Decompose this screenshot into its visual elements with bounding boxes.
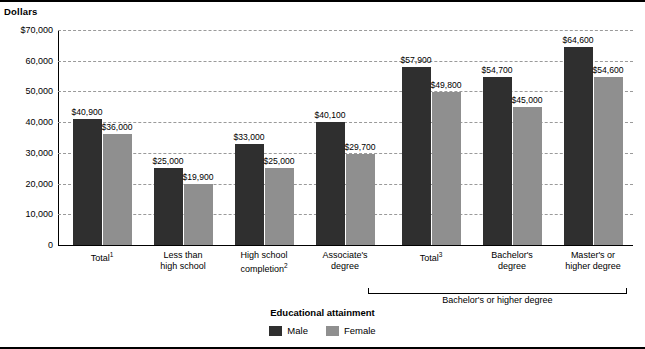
bar-female-1 <box>184 184 213 245</box>
y-tick-0: 0 <box>48 240 53 250</box>
legend-swatch-female-icon <box>326 326 339 336</box>
bar-series-layer: $40,900$36,000$25,000$19,900$33,000$25,0… <box>58 30 633 245</box>
bar-label-male-6: $64,600 <box>555 35 602 45</box>
category-label-5: Bachelor'sdegree <box>470 250 554 271</box>
y-tick-70000: $70,000 <box>20 25 53 35</box>
y-tick-50000: 50,000 <box>25 86 53 96</box>
bar-label-male-4: $57,900 <box>393 55 440 65</box>
bar-female-6 <box>594 77 623 245</box>
bar-label-male-1: $25,000 <box>145 156 192 166</box>
bar-label-female-3: $29,700 <box>337 142 384 152</box>
bar-label-female-0: $36,000 <box>94 122 141 132</box>
y-axis-title: Dollars <box>4 6 38 17</box>
legend-label-female: Female <box>344 325 376 336</box>
y-tick-10000: 10,000 <box>25 209 53 219</box>
y-tick-30000: 30,000 <box>25 148 53 158</box>
bar-label-female-2: $25,000 <box>256 156 303 166</box>
bar-male-0 <box>73 119 102 245</box>
bar-female-2 <box>265 168 294 245</box>
y-tick-40000: 40,000 <box>25 117 53 127</box>
top-divider <box>0 0 645 2</box>
y-tick-60000: 60,000 <box>25 56 53 66</box>
bar-male-3 <box>316 122 345 245</box>
bar-male-4 <box>402 67 431 245</box>
bracket-tick-left <box>368 288 369 294</box>
bar-female-3 <box>346 154 375 245</box>
bar-label-female-6: $54,600 <box>585 65 632 75</box>
legend-item-male[interactable]: Male <box>269 325 308 336</box>
bar-label-male-2: $33,000 <box>226 132 273 142</box>
category-label-4: Total3 <box>389 250 473 264</box>
chart-legend: Male Female <box>0 325 645 336</box>
plot-area: $70,000 60,000 50,000 40,000 30,000 20,0… <box>58 30 633 245</box>
bar-label-female-1: $19,900 <box>175 172 222 182</box>
legend-item-female[interactable]: Female <box>326 325 376 336</box>
category-label-0: Total1 <box>60 250 144 264</box>
bar-female-4 <box>432 92 461 245</box>
bracket-label: Bachelor's or higher degree <box>368 295 627 305</box>
legend-swatch-male-icon <box>269 326 282 336</box>
bracket-line <box>368 293 627 294</box>
legend-label-male: Male <box>287 325 308 336</box>
x-axis-line <box>58 245 633 246</box>
bracket-tick-right <box>626 288 627 294</box>
chart-container: Dollars $70,000 60,000 50,000 40,000 30,… <box>0 0 645 349</box>
category-label-1: Less thanhigh school <box>141 250 225 271</box>
x-axis-title: Educational attainment <box>0 307 645 318</box>
y-tick-20000: 20,000 <box>25 179 53 189</box>
category-label-6: Master's orhigher degree <box>551 250 635 271</box>
category-label-3: Associate'sdegree <box>303 250 387 271</box>
bar-label-male-0: $40,900 <box>64 107 111 117</box>
bar-label-male-5: $54,700 <box>474 65 521 75</box>
bar-female-0 <box>103 134 132 245</box>
category-label-2: High schoolcompletion2 <box>222 250 306 274</box>
bar-male-6 <box>564 47 593 245</box>
bar-label-male-3: $40,100 <box>307 110 354 120</box>
bar-label-female-4: $49,800 <box>423 80 470 90</box>
bar-label-female-5: $45,000 <box>504 95 551 105</box>
bar-female-5 <box>513 107 542 245</box>
